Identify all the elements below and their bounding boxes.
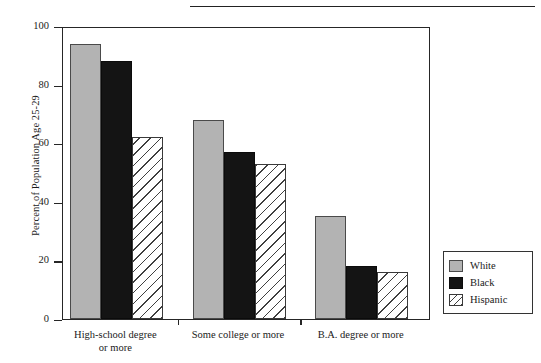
legend-label: Black [470,277,495,288]
bar-hispanic-group-2 [255,164,286,319]
x-axis-category-label: B.A. degree or more [286,328,436,341]
y-axis-tick-label: 60 [39,137,50,148]
bar-black-group-1 [101,61,132,319]
legend-swatch-white [449,260,463,272]
y-axis-tick-mark [54,86,62,87]
y-axis-tick-label: 0 [44,313,49,324]
x-axis-group-separator [300,319,301,325]
x-axis-category-label-line: B.A. degree or more [286,328,436,341]
legend: WhiteBlackHispanic [443,251,533,314]
bar-hispanic-group-3 [377,272,408,319]
x-axis-group-separator [178,319,179,325]
legend-label: Hispanic [470,294,507,305]
legend-swatch-black [449,277,463,289]
bar-white-group-2 [193,120,224,319]
y-axis-tick-mark [54,27,62,28]
y-axis-tick-mark [54,144,62,145]
y-axis-tick-mark [54,261,62,262]
legend-rows: WhiteBlackHispanic [449,257,526,308]
bar-hispanic-group-1 [132,137,163,319]
bar-white-group-3 [315,216,346,319]
y-axis-tick-label: 20 [39,254,50,265]
bar-black-group-2 [224,152,255,319]
top-rule-divider [190,6,535,7]
y-axis-tick-mark [54,203,62,204]
x-axis-category-label-line: or more [40,341,190,354]
y-axis-tick-label: 100 [33,20,49,31]
figure: Percent of Population Age 25-29 02040608… [0,0,541,363]
legend-item-white: White [449,257,526,274]
y-axis-tick-mark [54,320,62,321]
legend-item-black: Black [449,274,526,291]
y-axis-tick-label: 80 [39,79,50,90]
plot-area [62,27,430,320]
legend-label: White [470,260,496,271]
y-axis-tick-label: 40 [39,196,50,207]
legend-item-hispanic: Hispanic [449,291,526,308]
legend-swatch-hispanic [449,294,463,306]
bar-black-group-3 [346,266,377,319]
bar-white-group-1 [70,44,101,319]
